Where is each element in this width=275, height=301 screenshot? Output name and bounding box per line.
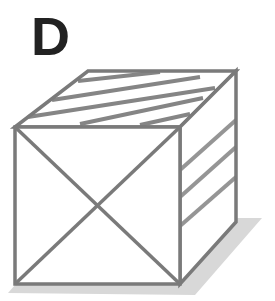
figure-label: D [31, 9, 70, 63]
cube-figure: D [0, 0, 275, 301]
